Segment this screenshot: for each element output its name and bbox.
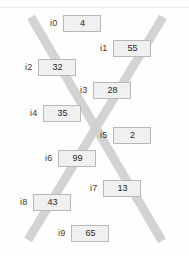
list-item[interactable]: i4 35 <box>30 105 81 122</box>
item-value-box[interactable]: 35 <box>43 105 81 122</box>
item-value-box[interactable]: 55 <box>113 40 151 57</box>
item-index-label: i4 <box>30 109 37 118</box>
item-index-label: i6 <box>45 154 52 163</box>
visualization-canvas: i0 4 i1 55 i2 32 i3 28 i4 35 i5 2 i6 99 … <box>0 0 189 256</box>
item-index-label: i1 <box>100 44 107 53</box>
item-value-box[interactable]: 28 <box>93 82 131 99</box>
item-index-label: i7 <box>90 184 97 193</box>
item-value-box[interactable]: 32 <box>38 59 76 76</box>
item-value-box[interactable]: 43 <box>33 194 71 211</box>
item-value-box[interactable]: 13 <box>103 180 141 197</box>
panel-top-divider <box>0 7 189 8</box>
list-item[interactable]: i3 28 <box>80 82 131 99</box>
item-index-label: i8 <box>20 198 27 207</box>
list-item[interactable]: i0 4 <box>50 15 101 32</box>
list-item[interactable]: i9 65 <box>58 225 109 242</box>
x-cross-overlay <box>0 0 189 256</box>
item-value-box[interactable]: 4 <box>63 15 101 32</box>
item-index-label: i5 <box>100 131 107 140</box>
item-index-label: i2 <box>25 63 32 72</box>
item-index-label: i0 <box>50 19 57 28</box>
item-value-box[interactable]: 2 <box>113 127 151 144</box>
item-value-box[interactable]: 99 <box>58 150 96 167</box>
item-index-label: i3 <box>80 86 87 95</box>
list-item[interactable]: i7 13 <box>90 180 141 197</box>
item-index-label: i9 <box>58 229 65 238</box>
list-item[interactable]: i6 99 <box>45 150 96 167</box>
list-item[interactable]: i8 43 <box>20 194 71 211</box>
list-item[interactable]: i2 32 <box>25 59 76 76</box>
item-value-box[interactable]: 65 <box>71 225 109 242</box>
list-item[interactable]: i5 2 <box>100 127 151 144</box>
list-item[interactable]: i1 55 <box>100 40 151 57</box>
